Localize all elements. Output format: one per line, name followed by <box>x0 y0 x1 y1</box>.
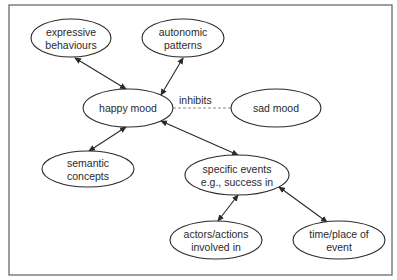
node-label: concepts <box>67 170 109 182</box>
node-label: event <box>326 241 352 253</box>
node-label: behaviours <box>45 39 96 51</box>
node-label: semantic <box>67 157 109 169</box>
node-label: autonomic <box>159 26 207 38</box>
node-timeplace: time/place ofevent <box>293 221 385 259</box>
node-actors: actors/actionsinvolved in <box>170 221 262 259</box>
node-label: expressive <box>46 26 96 38</box>
node-expressive: expressivebehaviours <box>31 19 111 57</box>
node-specific: specific eventse.g., success in <box>185 155 289 195</box>
node-semantic: semanticconcepts <box>42 151 134 187</box>
node-label: actors/actions <box>184 228 249 240</box>
node-label: time/place of <box>309 228 369 240</box>
edge-label-inhibits: inhibits <box>179 94 212 106</box>
node-autonomic: autonomicpatterns <box>142 19 224 57</box>
node-label: patterns <box>164 39 202 51</box>
node-label: involved in <box>191 241 241 253</box>
node-label: specific events <box>203 163 272 175</box>
node-happy: happy mood <box>83 89 173 127</box>
node-label: e.g., success in <box>201 176 274 188</box>
concept-diagram: inhibits expressivebehavioursautonomicpa… <box>0 0 397 280</box>
node-label: sad mood <box>253 102 299 114</box>
node-sad: sad mood <box>231 89 321 127</box>
node-label: happy mood <box>99 102 157 114</box>
